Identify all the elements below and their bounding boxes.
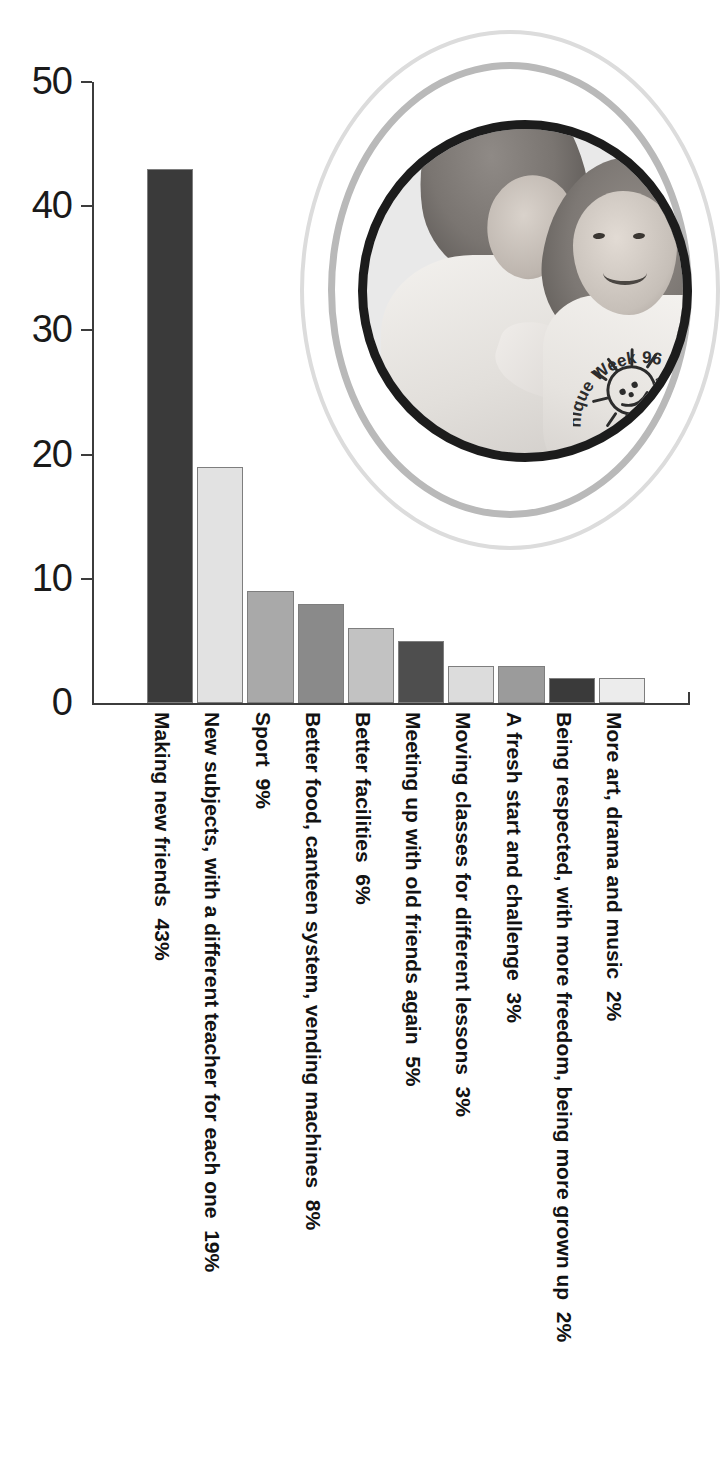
bar [197, 467, 243, 703]
category-label: New subjects, with a different teacher f… [189, 712, 235, 1412]
y-axis-tick-label: 30 [14, 310, 72, 348]
y-axis-tick-label: 40 [14, 186, 72, 224]
category-label-text: More art, drama and music 2% [603, 712, 626, 1021]
bar [599, 678, 645, 703]
y-axis-tick-label: 50 [14, 62, 72, 100]
y-axis-tick [81, 205, 92, 207]
bar [348, 628, 394, 703]
category-label: Better facilities 6% [340, 712, 386, 1412]
y-axis-labels: 01020304050 [0, 0, 72, 760]
x-axis-line [92, 703, 690, 705]
category-label-text: Better facilities 6% [352, 712, 375, 905]
category-label-text: Better food, canteen system, vending mac… [302, 712, 325, 1230]
y-axis-tick [81, 329, 92, 331]
bar [549, 678, 595, 703]
bar [398, 641, 444, 703]
bar [498, 666, 544, 703]
category-label-text: Being respected, with more freedom, bein… [553, 712, 576, 1342]
category-label: Moving classes for different lessons 3% [440, 712, 486, 1412]
category-label: Better food, canteen system, vending mac… [290, 712, 336, 1412]
category-label: Meeting up with old friends again 5% [390, 712, 436, 1412]
y-axis-tick-label: 20 [14, 435, 72, 473]
category-label-text: Moving classes for different lessons 3% [452, 712, 475, 1117]
y-axis-tick-label: 10 [14, 559, 72, 597]
bar [147, 169, 193, 703]
category-label: A fresh start and challenge 3% [491, 712, 537, 1412]
y-axis-tick [81, 81, 92, 83]
category-label: Being respected, with more freedom, bein… [541, 712, 587, 1412]
category-label-text: Making new friends 43% [151, 712, 174, 961]
category-labels: Making new friends 43%New subjects, with… [92, 712, 690, 1452]
category-label-text: Meeting up with old friends again 5% [402, 712, 425, 1087]
category-label-text: Sport 9% [252, 712, 275, 809]
category-label: Making new friends 43% [139, 712, 185, 1412]
y-axis-tick [81, 578, 92, 580]
category-label-text: A fresh start and challenge 3% [503, 712, 526, 1023]
bar [448, 666, 494, 703]
category-label: More art, drama and music 2% [591, 712, 637, 1412]
category-label: Sport 9% [240, 712, 286, 1412]
category-label-text: New subjects, with a different teacher f… [201, 712, 224, 1272]
bars-container [92, 82, 690, 703]
y-axis-tick [81, 454, 92, 456]
bar [247, 591, 293, 703]
bar [298, 604, 344, 703]
bar-chart: 01020304050 Making new friends 43%New su… [0, 0, 698, 760]
y-axis-tick-label: 0 [14, 683, 72, 721]
